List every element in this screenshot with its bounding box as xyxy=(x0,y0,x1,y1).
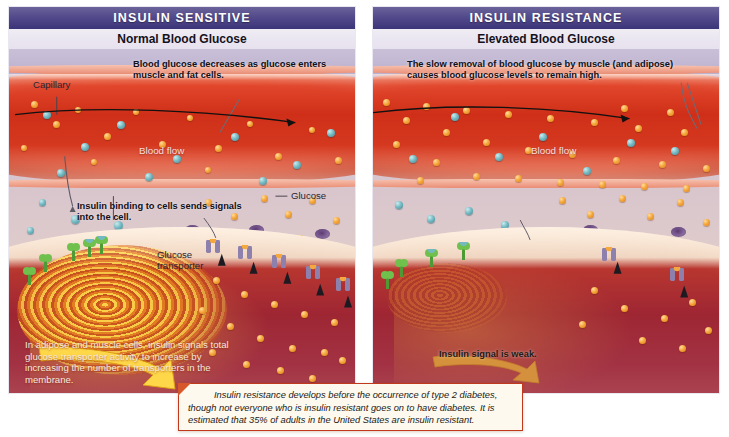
caption-text: Insulin resistance develops before the o… xyxy=(188,389,514,427)
insulin-receptor-bound-icon xyxy=(95,236,108,254)
glucose-transporter-icon xyxy=(237,245,253,260)
insulin-receptor-bound-icon xyxy=(83,239,96,257)
insulin-receptor-bound-icon xyxy=(457,242,470,260)
capillary-wall-bottom xyxy=(373,179,719,188)
panel-subtitle-normal-blood-glucose: Normal Blood Glucose xyxy=(9,29,355,49)
caption-box: Insulin resistance develops before the o… xyxy=(178,383,523,431)
label-capillary: Capillary xyxy=(33,79,70,90)
callout-bottom-left: In adipose and muscle cells, insulin sig… xyxy=(25,339,241,385)
insulin-receptor-icon xyxy=(381,271,394,289)
callout-bottom-right: Insulin signal is weak. xyxy=(439,349,609,361)
label-blood-flow-right: Blood flow xyxy=(531,145,576,156)
insulin-diagram-figure: INSULIN SENSITIVE Normal Blood Glucose xyxy=(0,0,729,437)
label-blood-flow-left: Blood flow xyxy=(139,145,184,156)
callout-top-left: Blood glucose decreases as glucose enter… xyxy=(133,59,343,82)
panel-header-insulin-sensitive: INSULIN SENSITIVE xyxy=(9,7,355,29)
caption-fold-corner-icon xyxy=(178,383,191,396)
glucose-transporter-icon xyxy=(271,254,287,269)
scene-insulin-sensitive: Capillary Blood glucose decreases as glu… xyxy=(9,49,355,393)
callout-top-right: The slow removal of blood glucose by mus… xyxy=(407,59,675,82)
insulin-receptor-icon xyxy=(39,254,52,272)
insulin-receptor-icon xyxy=(67,243,80,261)
glucose-transporter-icon xyxy=(305,265,321,280)
panel-header-insulin-resistance: INSULIN RESISTANCE xyxy=(373,7,719,29)
capillary-wall-bottom xyxy=(9,179,355,188)
glucose-transporter-icon xyxy=(669,267,685,282)
panel-subtitle-elevated-blood-glucose: Elevated Blood Glucose xyxy=(373,29,719,49)
insulin-receptor-bound-icon xyxy=(425,249,438,267)
panel-insulin-sensitive: INSULIN SENSITIVE Normal Blood Glucose xyxy=(8,6,356,394)
insulin-receptor-icon xyxy=(395,259,408,277)
glucose-transporter-icon xyxy=(335,277,351,292)
capillary-lumen xyxy=(373,67,719,185)
insulin-receptor-icon xyxy=(23,267,36,285)
glucose-transporter-icon xyxy=(601,247,617,262)
label-glucose-transporter: Glucose transporter xyxy=(157,249,219,271)
callout-middle-left: Insulin binding to cells sends signals i… xyxy=(77,201,247,224)
panel-insulin-resistance: INSULIN RESISTANCE Elevated Blood Glucos… xyxy=(372,6,720,394)
label-glucose: Glucose xyxy=(291,190,326,201)
scene-insulin-resistance: The slow removal of blood glucose by mus… xyxy=(373,49,719,393)
